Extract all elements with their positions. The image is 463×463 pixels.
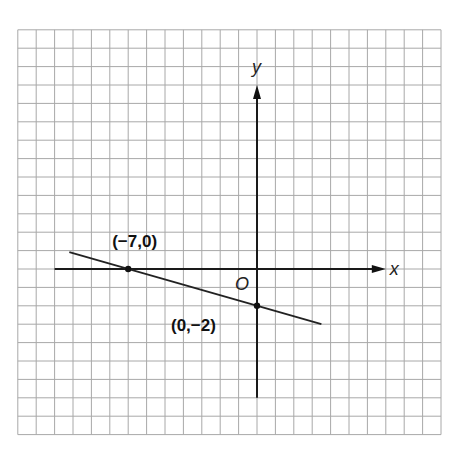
x-axis-arrowhead-icon <box>372 265 386 273</box>
x-axis-label: x <box>389 259 400 279</box>
origin-label: O <box>235 274 249 294</box>
coordinate-plane: x y O (−7,0) (0,−2) <box>0 0 463 463</box>
marked-point <box>125 266 131 272</box>
y-axis-label: y <box>250 57 262 77</box>
y-axis-arrowhead-icon <box>253 85 261 99</box>
graph-line <box>69 252 321 324</box>
point-label-x-intercept: (−7,0) <box>112 232 157 251</box>
point-label-y-intercept: (0,−2) <box>171 316 216 335</box>
grid <box>18 30 441 435</box>
marked-point <box>254 303 260 309</box>
